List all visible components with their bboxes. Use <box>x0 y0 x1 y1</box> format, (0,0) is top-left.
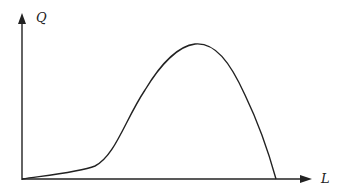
x-axis-label: L <box>321 171 330 186</box>
y-axis-label: Q <box>36 10 47 25</box>
diagram-canvas <box>0 0 346 191</box>
total-product-curve <box>22 44 276 179</box>
x-axis-arrow-icon <box>300 175 312 183</box>
y-axis-arrow-icon <box>18 13 26 24</box>
